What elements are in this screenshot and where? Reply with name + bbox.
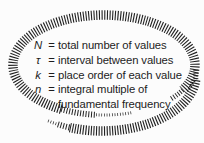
ellipse-hatch-lower-left-taper <box>58 124 70 127</box>
variable-symbol: N <box>31 38 45 53</box>
definition-text: interval between values <box>58 53 173 68</box>
definition-text-continued: fundamental frequency <box>58 97 170 112</box>
variable-symbol: τ <box>31 53 45 68</box>
definition-row: N = total number of values <box>31 38 182 53</box>
equals-sign: = <box>45 38 58 53</box>
definitions-list: N = total number of values τ = interval … <box>31 38 182 112</box>
equals-sign: = <box>45 68 58 83</box>
ellipse-hatch-bottom-dots <box>96 113 132 115</box>
variable-symbol: n <box>31 82 45 112</box>
ellipse-hatch-lower-left-dots <box>48 121 58 125</box>
equals-sign: = <box>45 53 58 68</box>
definition-row: k = place order of each value <box>31 68 182 83</box>
definition-row: n = integral multiple of fundamental fre… <box>31 82 182 112</box>
definition-text: integral multiple of <box>58 82 170 97</box>
equals-sign: = <box>45 82 58 112</box>
variable-definitions-figure: N = total number of values τ = interval … <box>0 0 204 143</box>
definition-text: place order of each value <box>58 68 182 83</box>
variable-symbol: k <box>31 68 45 83</box>
definition-row: τ = interval between values <box>31 53 182 68</box>
definition-text: total number of values <box>58 38 167 53</box>
